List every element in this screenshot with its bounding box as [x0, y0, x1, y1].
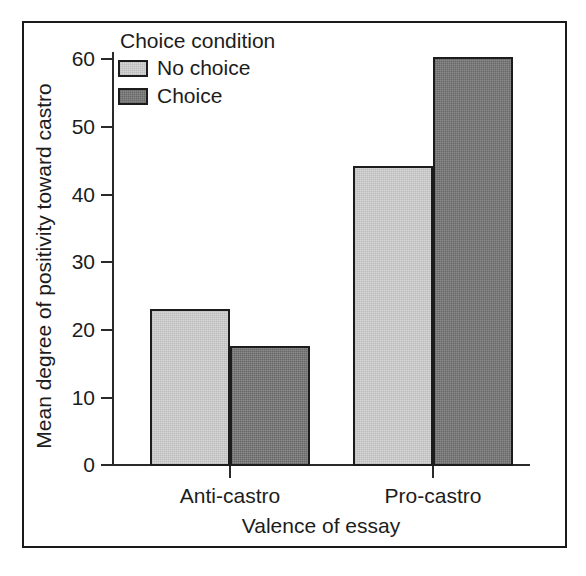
y-tick-50 — [101, 126, 112, 128]
bar-pro-castro-no-choice[interactable] — [353, 166, 433, 466]
y-tick-30 — [101, 261, 112, 263]
y-tick-label-50: 50 — [55, 116, 95, 137]
y-tick-10 — [101, 397, 112, 399]
y-tick-label-20: 20 — [55, 319, 95, 340]
y-tick-label-40: 40 — [55, 184, 95, 205]
bar-anti-castro-no-choice[interactable] — [150, 309, 230, 466]
legend-label-choice: Choice — [157, 84, 222, 108]
legend-swatch-no-choice-icon — [118, 60, 148, 77]
figure-canvas: 60 50 40 30 20 10 0 Anti-castro Pro-cast… — [0, 0, 586, 576]
y-tick-label-10: 10 — [55, 387, 95, 408]
x-tick-pro-castro — [432, 466, 434, 478]
legend-item-no-choice[interactable]: No choice — [118, 54, 368, 82]
x-tick-anti-castro — [229, 466, 231, 478]
x-tick-label-anti-castro: Anti-castro — [130, 484, 330, 508]
legend-item-choice[interactable]: Choice — [118, 82, 368, 110]
legend-label-no-choice: No choice — [157, 56, 250, 80]
y-tick-60 — [101, 58, 112, 60]
y-tick-40 — [101, 194, 112, 196]
plot-area: 60 50 40 30 20 10 0 Anti-castro Pro-cast… — [0, 0, 586, 576]
x-tick-label-pro-castro: Pro-castro — [333, 484, 533, 508]
legend: Choice condition No choice Choice — [118, 28, 368, 110]
bar-anti-castro-choice[interactable] — [230, 346, 310, 466]
y-axis-title: Mean degree of positivity toward castro — [32, 56, 56, 476]
x-axis-title: Valence of essay — [112, 514, 530, 538]
legend-title: Choice condition — [120, 28, 368, 54]
y-tick-20 — [101, 329, 112, 331]
y-tick-label-60: 60 — [55, 48, 95, 69]
legend-swatch-choice-icon — [118, 88, 148, 105]
y-tick-label-30: 30 — [55, 251, 95, 272]
y-axis-line — [112, 52, 114, 466]
bar-pro-castro-choice[interactable] — [433, 57, 513, 466]
y-tick-0 — [101, 464, 112, 466]
y-tick-label-0: 0 — [55, 454, 95, 475]
